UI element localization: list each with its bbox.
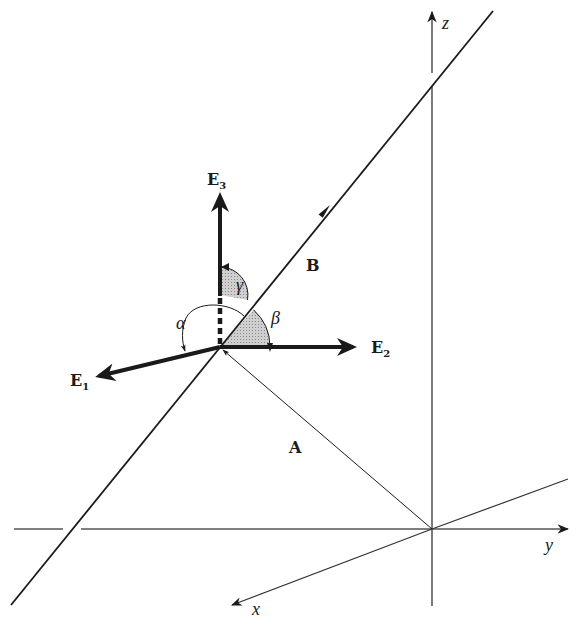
vector-b-label: B — [306, 258, 320, 274]
e1-label: E1 — [70, 373, 89, 389]
e1-subscript: 1 — [82, 381, 89, 392]
e2-subscript: 2 — [383, 348, 390, 359]
gamma-label: γ — [236, 276, 243, 294]
vector-a-label: A — [289, 440, 301, 456]
line-b-arrow-icon — [319, 205, 331, 218]
e3-letter: E — [207, 170, 219, 189]
diagram-canvas: z y x A B E3 E2 E1 α β γ — [0, 0, 572, 632]
e2-label: E2 — [371, 340, 390, 356]
z-axis-label: z — [442, 14, 449, 32]
x-axis-label: x — [252, 600, 260, 618]
beta-label: β — [271, 309, 280, 327]
e3-subscript: 3 — [219, 180, 226, 191]
line-b — [11, 11, 493, 605]
e3-label: E3 — [207, 172, 226, 188]
diagram-svg — [0, 0, 572, 632]
e2-letter: E — [371, 338, 383, 357]
frame-e1 — [99, 347, 220, 376]
x-axis — [232, 479, 568, 605]
gamma-sector — [220, 267, 248, 300]
alpha-label: α — [176, 314, 185, 332]
vector-a — [223, 350, 432, 529]
y-axis-label: y — [545, 536, 553, 554]
e1-letter: E — [70, 371, 82, 390]
